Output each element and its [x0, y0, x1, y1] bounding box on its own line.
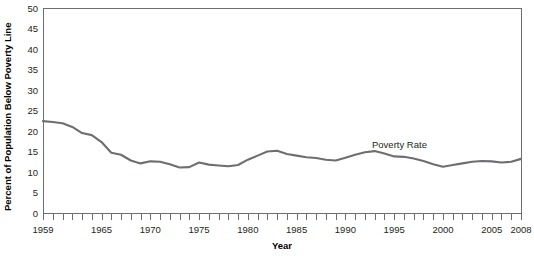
x-tick-label: 2000 — [432, 224, 453, 235]
x-axis-tick-labels: 1959196519701975198019851990199520002005… — [32, 224, 531, 235]
poverty-rate-chart-figure: Percent of Population Below Poverty Line… — [0, 0, 534, 256]
y-tick-label: 0 — [33, 208, 38, 219]
chart-canvas: Percent of Population Below Poverty Line… — [0, 0, 534, 256]
x-tick-label: 1980 — [237, 224, 258, 235]
y-tick-label: 10 — [27, 167, 38, 178]
x-tick-label: 2005 — [481, 224, 502, 235]
y-tick-label: 25 — [27, 105, 38, 116]
x-tick-label: 2008 — [510, 224, 531, 235]
data-series-group — [43, 121, 521, 167]
y-tick-label: 30 — [27, 85, 38, 96]
y-axis-tick-labels: 05101520253035404550 — [27, 3, 38, 219]
x-tick-label: 1975 — [189, 224, 210, 235]
x-tick-label: 1995 — [384, 224, 405, 235]
x-tick-label: 1959 — [32, 224, 53, 235]
y-tick-label: 40 — [27, 44, 38, 55]
y-tick-label: 20 — [27, 126, 38, 137]
y-tick-label: 45 — [27, 23, 38, 34]
x-axis-title: Year — [272, 240, 292, 251]
plot-frame — [44, 9, 522, 214]
y-tick-label: 15 — [27, 146, 38, 157]
poverty-rate-series-label: Poverty Rate — [372, 139, 427, 150]
y-tick-label: 5 — [33, 187, 38, 198]
poverty-rate-line — [43, 121, 521, 167]
x-axis-tick-marks — [44, 214, 522, 220]
x-tick-label: 1990 — [335, 224, 356, 235]
x-tick-label: 1970 — [140, 224, 161, 235]
y-tick-label: 35 — [27, 64, 38, 75]
x-tick-label: 1985 — [286, 224, 307, 235]
y-axis-title: Percent of Population Below Poverty Line — [2, 23, 13, 211]
x-tick-label: 1965 — [91, 224, 112, 235]
y-tick-label: 50 — [27, 3, 38, 14]
